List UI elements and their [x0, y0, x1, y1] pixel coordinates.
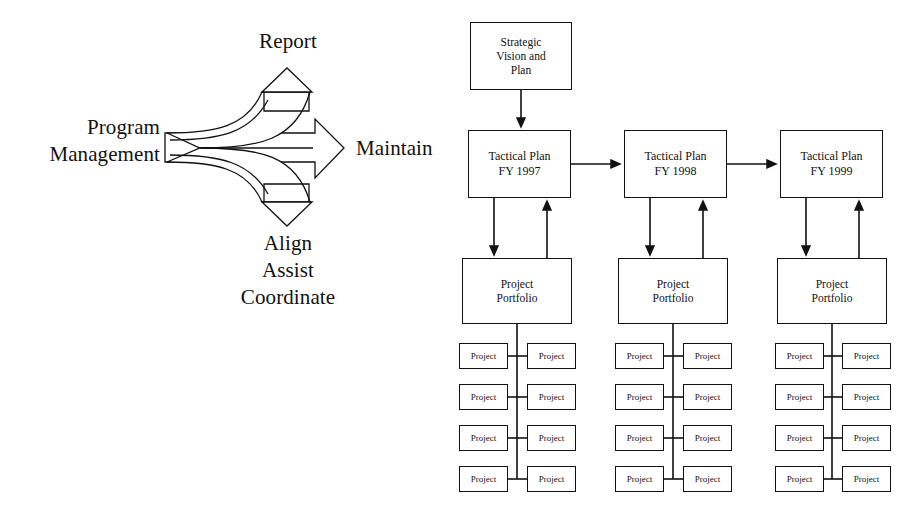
project-label: Project	[695, 351, 721, 362]
portfolio1-line2: Portfolio	[497, 291, 538, 305]
tactical2-line2: FY 1998	[644, 164, 706, 179]
node-project-c2-r1-right: Project	[683, 343, 732, 369]
project-label: Project	[695, 474, 721, 485]
assist-label: Assist	[241, 257, 335, 284]
node-project-c2-r4-right: Project	[683, 466, 732, 492]
project-label: Project	[854, 433, 880, 444]
project-label: Project	[471, 474, 497, 485]
tactical3-line1: Tactical Plan	[800, 149, 862, 164]
portfolio3-line2: Portfolio	[812, 291, 853, 305]
tactical2-line1: Tactical Plan	[644, 149, 706, 164]
project-label: Project	[539, 392, 565, 403]
project-label: Project	[854, 351, 880, 362]
project-label: Project	[627, 474, 653, 485]
coordinate-label: Coordinate	[241, 284, 335, 311]
project-label: Project	[787, 351, 813, 362]
node-project-portfolio-3: Project Portfolio	[777, 258, 887, 324]
project-label: Project	[695, 433, 721, 444]
node-project-c1-r1-left: Project	[459, 343, 508, 369]
node-tactical-plan-fy1999: Tactical Plan FY 1999	[780, 130, 883, 198]
tactical1-line1: Tactical Plan	[488, 149, 550, 164]
project-label: Project	[854, 392, 880, 403]
source-label: Program Management	[49, 114, 160, 168]
node-project-c3-r1-left: Project	[775, 343, 824, 369]
portfolio3-line1: Project	[812, 277, 853, 291]
project-label: Project	[787, 474, 813, 485]
node-tactical-plan-fy1998: Tactical Plan FY 1998	[624, 130, 727, 198]
project-label: Project	[471, 351, 497, 362]
node-project-c1-r2-left: Project	[459, 384, 508, 410]
node-project-c3-r2-right: Project	[842, 384, 891, 410]
project-label: Project	[539, 351, 565, 362]
strategic-line3: Plan	[496, 63, 545, 77]
align-assist-coordinate-label: Align Assist Coordinate	[241, 230, 335, 311]
project-label: Project	[787, 433, 813, 444]
figure-canvas: Program Management Report Maintain Align…	[0, 0, 924, 522]
report-label: Report	[259, 30, 317, 54]
align-label: Align	[241, 230, 335, 257]
source-label-line2: Management	[49, 141, 160, 168]
tactical3-line2: FY 1999	[800, 164, 862, 179]
portfolio2-line2: Portfolio	[653, 291, 694, 305]
node-project-c3-r2-left: Project	[775, 384, 824, 410]
node-project-c2-r1-left: Project	[615, 343, 664, 369]
node-project-c3-r3-left: Project	[775, 425, 824, 451]
node-project-c1-r4-left: Project	[459, 466, 508, 492]
node-project-c2-r2-left: Project	[615, 384, 664, 410]
project-label: Project	[471, 392, 497, 403]
node-project-c2-r3-right: Project	[683, 425, 732, 451]
project-label: Project	[539, 433, 565, 444]
project-label: Project	[539, 474, 565, 485]
node-project-c1-r4-right: Project	[527, 466, 576, 492]
node-project-c3-r4-left: Project	[775, 466, 824, 492]
node-project-c2-r4-left: Project	[615, 466, 664, 492]
node-strategic-vision-and-plan: Strategic Vision and Plan	[470, 22, 572, 90]
project-label: Project	[695, 392, 721, 403]
maintain-label: Maintain	[356, 137, 433, 161]
node-project-c3-r1-right: Project	[842, 343, 891, 369]
node-project-c3-r4-right: Project	[842, 466, 891, 492]
node-project-c1-r1-right: Project	[527, 343, 576, 369]
portfolio1-line1: Project	[497, 277, 538, 291]
tactical1-line2: FY 1997	[488, 164, 550, 179]
node-project-c3-r3-right: Project	[842, 425, 891, 451]
project-label: Project	[471, 433, 497, 444]
strategic-line2: Vision and	[496, 49, 545, 63]
node-tactical-plan-fy1997: Tactical Plan FY 1997	[468, 130, 571, 198]
strategic-line1: Strategic	[496, 35, 545, 49]
project-label: Project	[627, 433, 653, 444]
node-project-c2-r2-right: Project	[683, 384, 732, 410]
program-management-arrow-panel: Program Management Report Maintain Align…	[0, 0, 460, 330]
project-label: Project	[787, 392, 813, 403]
node-project-portfolio-2: Project Portfolio	[618, 258, 728, 324]
source-label-line1: Program	[49, 114, 160, 141]
node-project-c2-r3-left: Project	[615, 425, 664, 451]
portfolio2-line1: Project	[653, 277, 694, 291]
node-project-c1-r3-left: Project	[459, 425, 508, 451]
project-label: Project	[854, 474, 880, 485]
project-label: Project	[627, 351, 653, 362]
node-project-portfolio-1: Project Portfolio	[462, 258, 572, 324]
node-project-c1-r2-right: Project	[527, 384, 576, 410]
node-project-c1-r3-right: Project	[527, 425, 576, 451]
project-label: Project	[627, 392, 653, 403]
